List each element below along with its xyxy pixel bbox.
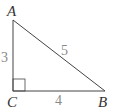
vertex-label-b: B [98,94,107,110]
right-angle-marker [13,79,25,91]
triangle-diagram: A C B 3 5 4 [0,0,118,112]
side-label-ac: 3 [1,50,8,65]
side-label-cb: 4 [55,93,62,108]
vertex-label-c: C [7,94,18,110]
side-label-ab: 5 [61,43,68,58]
triangle-abc [13,20,105,91]
vertex-label-a: A [6,3,17,19]
